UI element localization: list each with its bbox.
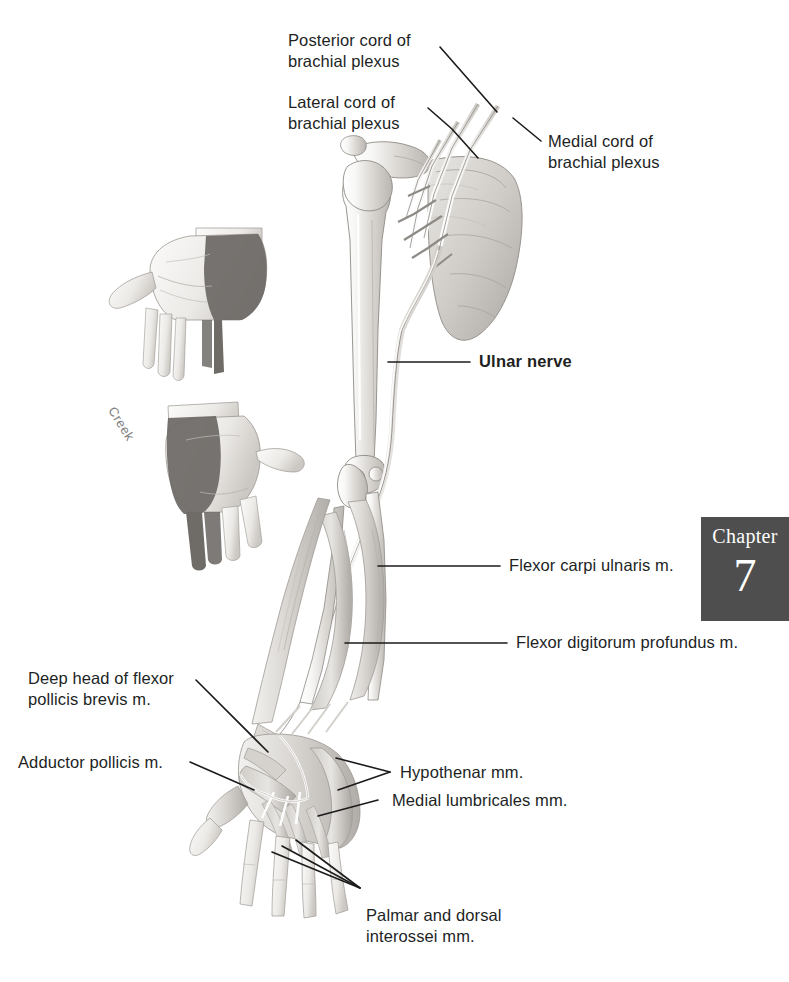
label-flexor-digitorum-profundus: Flexor digitorum profundus m. — [516, 632, 738, 653]
leader-interossei-c — [272, 852, 360, 888]
chapter-tab: Chapter 7 — [701, 517, 789, 621]
leader-medial-cord — [513, 118, 541, 141]
label-flexor-carpi-ulnaris: Flexor carpi ulnaris m. — [509, 555, 674, 576]
leader-lateral-cord — [428, 108, 478, 158]
leader-interossei-a — [296, 840, 360, 888]
chapter-tab-word: Chapter — [701, 517, 789, 548]
leader-deep-head-fpb — [196, 680, 268, 752]
label-ulnar-nerve: Ulnar nerve — [479, 351, 572, 372]
label-lateral-cord-of-brachial-plexus: Lateral cord of brachial plexus — [288, 92, 400, 134]
chapter-tab-number: 7 — [701, 548, 789, 602]
leader-adductor-pollicis — [190, 762, 254, 790]
label-medial-lumbricales-mm: Medial lumbricales mm. — [392, 790, 568, 811]
leader-hypothenar-b — [338, 772, 390, 790]
leader-lines — [0, 0, 789, 982]
label-adductor-pollicis: Adductor pollicis m. — [18, 752, 163, 773]
leader-medial-lumbricales — [318, 800, 378, 816]
label-palmar-and-dorsal-interossei: Palmar and dorsal interossei mm. — [366, 905, 502, 947]
figure-canvas: Posterior cord of brachial plexus Latera… — [0, 0, 789, 982]
label-posterior-cord-of-brachial-plexus: Posterior cord of brachial plexus — [288, 30, 411, 72]
leader-hypothenar-a — [336, 758, 390, 772]
label-deep-head-of-flexor-pollicis-brevis: Deep head of flexor pollicis brevis m. — [28, 668, 174, 710]
label-medial-cord-of-brachial-plexus: Medial cord of brachial plexus — [548, 131, 660, 173]
leader-posterior-cord — [440, 47, 497, 112]
leader-interossei-b — [282, 846, 360, 888]
label-hypothenar-mm: Hypothenar mm. — [400, 762, 523, 783]
